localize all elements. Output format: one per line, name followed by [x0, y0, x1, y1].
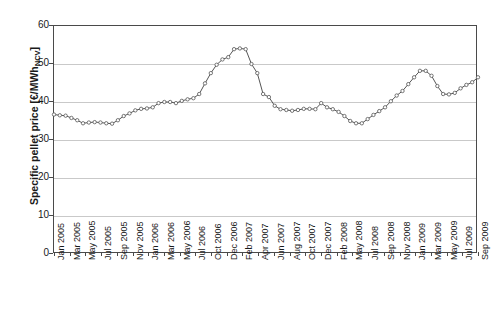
x-axis-tick-label: Nov 2008: [403, 221, 412, 260]
x-axis-tick-label: May 2006: [183, 220, 192, 260]
x-axis-tick-label: Mar 2006: [167, 222, 176, 260]
pellet-price-chart: Specific pellet price [€/MWhNCV] 0102030…: [0, 0, 492, 325]
x-axis-tick-label: Apr 2007: [261, 223, 270, 260]
x-axis-tick-label: Jan 2009: [418, 223, 427, 260]
y-axis-tick-mark: [49, 63, 53, 64]
x-axis-tick-label: May 2005: [88, 220, 97, 260]
y-axis-tick-label: 10: [19, 210, 49, 220]
x-axis-tick-label: Jul 2008: [371, 226, 380, 260]
x-axis-tick-label: Sep 2009: [481, 221, 490, 260]
x-axis-tick-label: Oct 2006: [214, 223, 223, 260]
x-axis-tick-label: Oct 2007: [308, 223, 317, 260]
y-axis-tick-mark: [49, 25, 53, 26]
y-axis-tick-label: 0: [19, 248, 49, 258]
y-axis-tick-mark: [49, 253, 53, 254]
x-axis-tick-label: Jan 2005: [57, 223, 66, 260]
y-axis-tick-mark: [49, 139, 53, 140]
y-axis-tick-label: 40: [19, 96, 49, 106]
x-axis-tick-label: Nov 2005: [136, 221, 145, 260]
y-axis-tick-label: 20: [19, 172, 49, 182]
x-axis-tick-label: Jul 2009: [465, 226, 474, 260]
y-axis-tick-mark: [49, 101, 53, 102]
x-axis-tick-label: Sep 2005: [120, 221, 129, 260]
x-axis-tick-label: Jun 2007: [277, 223, 286, 260]
x-axis-tick-label: May 2008: [355, 220, 364, 260]
x-axis-tick-label: Sep 2008: [387, 221, 396, 260]
x-axis-tick-label: Feb 2007: [245, 222, 254, 260]
x-axis-tick-label: Feb 2008: [340, 222, 349, 260]
y-axis-tick-label: 30: [19, 134, 49, 144]
y-axis-tick-label: 50: [19, 58, 49, 68]
x-axis-tick-label: Aug 2007: [293, 221, 302, 260]
x-axis-tick-label: Dec 2007: [324, 221, 333, 260]
x-axis-tick-label: Mar 2005: [73, 222, 82, 260]
x-axis-tick-label: Jul 2005: [104, 226, 113, 260]
x-axis-tick-label: Jan 2006: [151, 223, 160, 260]
y-axis-tick-mark: [49, 177, 53, 178]
x-axis-tick-label: May 2009: [450, 220, 459, 260]
y-axis-tick-labels: 0102030405060: [0, 0, 492, 325]
y-axis-tick-label: 60: [19, 20, 49, 30]
x-axis-tick-label: Jul 2006: [198, 226, 207, 260]
y-axis-tick-mark: [49, 215, 53, 216]
x-axis-tick-label: Dec 2006: [230, 221, 239, 260]
x-axis-tick-label: Mar 2009: [434, 222, 443, 260]
